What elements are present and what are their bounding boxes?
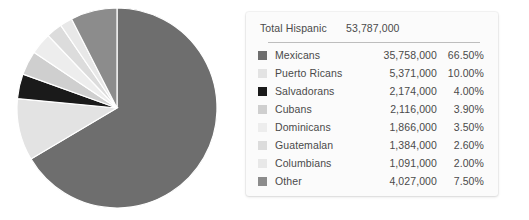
legend-percent: 10.00% bbox=[437, 67, 484, 79]
legend-percent: 2.00% bbox=[437, 157, 484, 169]
legend-color-swatch bbox=[258, 159, 267, 168]
legend-row[interactable]: Guatemalan1,384,0002.60% bbox=[246, 136, 498, 154]
legend-row[interactable]: Mexicans35,758,00066.50% bbox=[246, 46, 498, 64]
total-hispanic-label: Total Hispanic bbox=[260, 22, 346, 34]
legend-label: Dominicans bbox=[275, 121, 363, 133]
total-hispanic-row: Total Hispanic 53,787,000 bbox=[246, 12, 498, 38]
legend-percent: 3.90% bbox=[437, 103, 484, 115]
legend-value: 1,866,000 bbox=[363, 121, 437, 133]
legend-label: Puerto Ricans bbox=[275, 67, 363, 79]
legend-value: 35,758,000 bbox=[363, 49, 437, 61]
pie-chart-figure bbox=[10, 6, 225, 211]
legend-percent: 66.50% bbox=[437, 49, 484, 61]
legend-percent: 7.50% bbox=[437, 175, 484, 187]
legend-label: Cubans bbox=[275, 103, 363, 115]
legend-percent: 4.00% bbox=[437, 85, 484, 97]
legend-label: Guatemalan bbox=[275, 139, 363, 151]
legend-color-swatch bbox=[258, 69, 267, 78]
legend-row[interactable]: Other4,027,0007.50% bbox=[246, 172, 498, 190]
legend-color-swatch bbox=[258, 177, 267, 186]
legend-value: 2,174,000 bbox=[363, 85, 437, 97]
legend-value: 5,371,000 bbox=[363, 67, 437, 79]
legend-label: Salvadorans bbox=[275, 85, 363, 97]
legend-label: Columbians bbox=[275, 157, 363, 169]
legend-value: 1,384,000 bbox=[363, 139, 437, 151]
legend-color-swatch bbox=[258, 51, 267, 60]
legend-value: 1,091,000 bbox=[363, 157, 437, 169]
legend-row[interactable]: Salvadorans2,174,0004.00% bbox=[246, 82, 498, 100]
legend-row[interactable]: Columbians1,091,0002.00% bbox=[246, 154, 498, 172]
legend-panel: Total Hispanic 53,787,000 Mexicans35,758… bbox=[246, 12, 498, 196]
legend-color-swatch bbox=[258, 105, 267, 114]
legend-color-swatch bbox=[258, 123, 267, 132]
legend-color-swatch bbox=[258, 87, 267, 96]
legend-value: 2,116,000 bbox=[363, 103, 437, 115]
legend-percent: 2.60% bbox=[437, 139, 484, 151]
legend-row[interactable]: Cubans2,116,0003.90% bbox=[246, 100, 498, 118]
legend-row[interactable]: Dominicans1,866,0003.50% bbox=[246, 118, 498, 136]
legend-label: Mexicans bbox=[275, 49, 363, 61]
pie-slice-group bbox=[17, 8, 217, 208]
legend-list: Mexicans35,758,00066.50%Puerto Ricans5,3… bbox=[246, 43, 498, 190]
legend-value: 4,027,000 bbox=[363, 175, 437, 187]
legend-label: Other bbox=[275, 175, 363, 187]
pie-chart-svg bbox=[10, 6, 225, 211]
legend-percent: 3.50% bbox=[437, 121, 484, 133]
total-hispanic-value: 53,787,000 bbox=[346, 22, 400, 34]
legend-row[interactable]: Puerto Ricans5,371,00010.00% bbox=[246, 64, 498, 82]
legend-color-swatch bbox=[258, 141, 267, 150]
